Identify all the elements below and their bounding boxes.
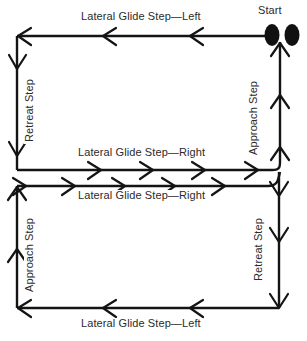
label-bottom-horizontal: Lateral Glide Step—Left: [79, 318, 203, 329]
start-label: Start: [256, 5, 284, 16]
footprint-left: [265, 24, 280, 46]
label-lower-right-vertical: Retreat Step: [253, 216, 264, 283]
footprint-right: [285, 24, 300, 46]
label-middle-upper-horizontal: Lateral Glide Step—Right: [76, 147, 207, 158]
label-middle-lower-horizontal: Lateral Glide Step—Right: [76, 190, 207, 201]
label-top-horizontal: Lateral Glide Step—Left: [79, 11, 203, 22]
footwork-pattern-diagram: Start Lateral Glide Step—Left Retreat St…: [0, 0, 307, 341]
label-lower-left-vertical: Approach Step: [24, 216, 35, 294]
label-upper-left-vertical: Retreat Step: [24, 77, 35, 144]
floor-pattern-svg: [0, 0, 307, 341]
label-upper-right-vertical: Approach Step: [248, 79, 259, 157]
